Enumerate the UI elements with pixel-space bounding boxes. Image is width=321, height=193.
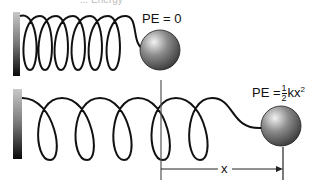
cropped-title: ... Energy (80, 0, 123, 5)
pe-prefix: PE = (252, 85, 281, 100)
top-spring (20, 16, 145, 70)
arrow-head-icon (276, 166, 283, 172)
bottom-wall (13, 89, 22, 159)
top-ball (140, 30, 180, 70)
exponent: 2 (301, 85, 305, 94)
top-pe-label: PE = 0 (142, 11, 181, 26)
fraction-denominator: 2 (282, 94, 287, 103)
bottom-pe-label: PE =12kx2 (252, 84, 305, 103)
displacement-label: x (221, 161, 228, 176)
bottom-spring (22, 98, 262, 160)
bottom-ball (261, 106, 301, 146)
one-half-fraction: 12 (282, 84, 287, 103)
pe-suffix: kx (288, 85, 301, 100)
spring-potential-energy-diagram: ... Energy PE = 0 PE =12kx2 x (0, 0, 321, 193)
top-wall (13, 12, 20, 76)
